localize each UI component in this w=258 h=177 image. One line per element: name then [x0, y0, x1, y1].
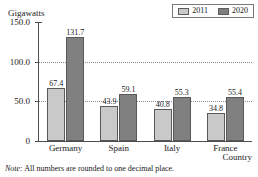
legend-swatch-icon	[178, 8, 189, 15]
bar-group-france: 34.855.4France	[199, 22, 252, 141]
bar-italy-2020: 55.3	[173, 97, 191, 141]
bar-italy-2011: 40.8	[154, 109, 172, 141]
bar-group-italy: 40.855.3Italy	[146, 22, 199, 141]
x-axis-category-label: Italy	[164, 144, 181, 153]
y-axis-tick-label: 100.0	[10, 57, 30, 66]
x-axis-category-label: Germany	[49, 144, 83, 153]
bar-value-label: 43.9	[102, 98, 116, 106]
y-axis-tick: 0	[35, 141, 39, 142]
bar-spain-2020: 59.1	[119, 94, 137, 141]
bar-group-spain: 43.959.1Spain	[92, 22, 145, 141]
legend-label: 2011	[192, 7, 208, 15]
bar-value-label: 40.8	[156, 101, 170, 109]
bar-germany-2011: 67.4	[47, 88, 65, 141]
bar-groups: 67.4131.7Germany43.959.1Spain40.855.3Ita…	[39, 22, 252, 141]
bar-group-germany: 67.4131.7Germany	[39, 22, 92, 141]
y-axis-tick-label: 0	[26, 137, 31, 146]
bar-value-label: 55.4	[228, 89, 242, 97]
x-axis-title: Country	[222, 152, 252, 162]
bar-france-2011: 34.8	[207, 113, 225, 141]
clipped-title-remnant	[0, 0, 258, 2]
legend: 20112020	[172, 4, 254, 18]
bar-germany-2020: 131.7	[66, 37, 84, 141]
legend-swatch-icon	[218, 8, 229, 15]
bar-value-label: 55.3	[175, 89, 189, 97]
legend-entry-2011: 2011	[178, 7, 208, 15]
plot-area: 050.0100.0150.0 67.4131.7Germany43.959.1…	[38, 22, 252, 141]
note-tag: Note:	[5, 164, 23, 173]
figure-note: Note: All numbers are rounded to one dec…	[5, 165, 174, 173]
legend-entry-2020: 2020	[218, 7, 248, 15]
note-text: All numbers are rounded to one decimal p…	[24, 164, 174, 173]
y-axis-tick-label: 150.0	[10, 18, 30, 27]
bar-spain-2011: 43.9	[100, 106, 118, 141]
bar-value-label: 131.7	[66, 29, 84, 37]
x-axis-line	[38, 141, 252, 142]
bar-chart-figure: Gigawatts 050.0100.0150.0 67.4131.7Germa…	[0, 0, 258, 177]
y-axis-tick-label: 50.0	[14, 97, 30, 106]
legend-label: 2020	[232, 7, 248, 15]
bar-france-2020: 55.4	[226, 97, 244, 141]
bar-value-label: 59.1	[121, 86, 135, 94]
bar-value-label: 67.4	[49, 80, 63, 88]
bar-value-label: 34.8	[209, 105, 223, 113]
x-axis-category-label: Spain	[109, 144, 130, 153]
